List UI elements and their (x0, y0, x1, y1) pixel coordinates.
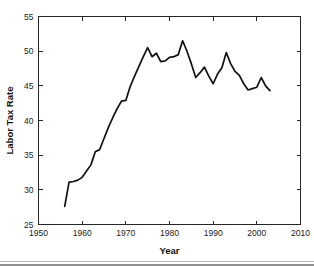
x-tick-label: 1960 (73, 228, 92, 238)
y-tick-label: 35 (24, 150, 34, 160)
x-tick-label: 1990 (204, 228, 223, 238)
y-tick-label: 30 (24, 185, 34, 195)
x-axis-title: Year (159, 245, 179, 256)
chart-figure: 2530354045505519501960197019801990200020… (0, 0, 314, 266)
x-tick-label: 2000 (247, 228, 266, 238)
line-chart: 2530354045505519501960197019801990200020… (0, 0, 314, 266)
footer-divider (0, 261, 314, 262)
y-tick-label: 40 (24, 116, 34, 126)
series-line-labor-tax-rate (65, 41, 270, 207)
x-tick-label: 1980 (160, 228, 179, 238)
y-axis-title: Labor Tax Rate (4, 87, 15, 155)
plot-area-border (39, 17, 301, 225)
y-tick-label: 45 (24, 81, 34, 91)
y-tick-label: 55 (24, 12, 34, 22)
y-tick-label: 50 (24, 46, 34, 56)
x-tick-label: 2010 (291, 228, 310, 238)
x-tick-label: 1970 (116, 228, 135, 238)
x-tick-label: 1950 (29, 228, 48, 238)
